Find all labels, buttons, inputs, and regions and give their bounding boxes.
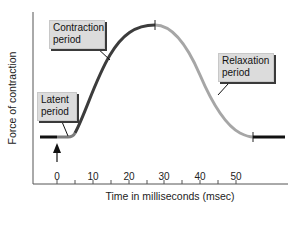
tick-label-30: 30 [154, 171, 174, 182]
tick-label-0: 0 [47, 171, 67, 182]
relaxation-label-line2: period [222, 67, 270, 79]
tick-label-20: 20 [119, 171, 139, 182]
relaxation-label-line1: Relaxation [222, 55, 270, 67]
latent-curve [57, 133, 75, 137]
tick-label-10: 10 [83, 171, 103, 182]
contraction-label-line2: period [53, 34, 101, 46]
y-axis-label: Force of contraction [6, 43, 18, 153]
latent-period-label: Latent period [37, 92, 77, 121]
stimulus-arrow-icon [53, 143, 61, 162]
latent-label-line2: period [41, 106, 73, 118]
tick-label-40: 40 [190, 171, 210, 182]
tick-label-50: 50 [226, 171, 246, 182]
x-axis-label: Time in milliseconds (msec) [90, 190, 250, 202]
relaxation-period-label: Relaxation period [218, 53, 274, 82]
relaxation-leader [218, 84, 228, 95]
contraction-period-label: Contraction period [49, 20, 105, 49]
contraction-label-line1: Contraction [53, 22, 101, 34]
latent-label-line1: Latent [41, 94, 73, 106]
